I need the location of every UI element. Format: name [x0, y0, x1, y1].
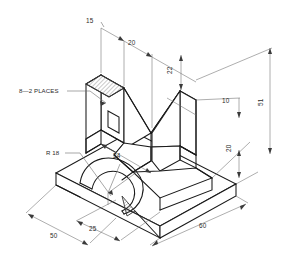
- arrow-22-bot: [179, 84, 183, 90]
- arrow-10-bot: [237, 112, 241, 118]
- dim-label-20a: 20: [128, 39, 136, 46]
- dim-label-60: 60: [199, 222, 207, 229]
- technical-drawing-canvas: 15 20 22 10 20: [0, 0, 294, 273]
- dim-label-34: 34: [113, 152, 121, 159]
- note-label-places: 8—2 PLACES: [19, 87, 59, 94]
- arrow-50-left: [28, 214, 34, 219]
- right-wing-inner-face: [152, 91, 180, 147]
- arrow-22-top: [179, 55, 183, 61]
- dim-label-22: 22: [166, 66, 173, 74]
- dim-label-25: 25: [89, 225, 97, 232]
- arrow-25-right: [114, 236, 120, 241]
- arrow-20b-bot: [237, 172, 241, 178]
- note-label-radius: R 18: [46, 149, 60, 156]
- arrow-15: [118, 36, 124, 41]
- rail-51-upper: [196, 48, 272, 80]
- arrow-20a: [146, 52, 152, 57]
- arrow-51-top: [268, 48, 272, 54]
- dim-label-15: 15: [86, 17, 94, 24]
- arrow-60-right: [240, 204, 246, 210]
- isometric-drawing-svg: 15 20 22 10 20: [0, 0, 294, 273]
- dim-label-51: 51: [257, 98, 264, 106]
- arrow-25-left: [77, 221, 83, 226]
- dim-label-20b: 20: [225, 144, 232, 152]
- arrow-51-bot: [268, 148, 272, 154]
- rail-22-upper: [152, 57, 196, 82]
- dim-line-25: [77, 221, 120, 241]
- ext-60-b: [236, 196, 248, 203]
- dim-line-50: [28, 214, 88, 245]
- dim-label-10: 10: [222, 97, 230, 104]
- ext-50-a: [26, 185, 56, 213]
- dim-label-50: 50: [50, 232, 58, 239]
- right-wing-side-face: [180, 91, 196, 155]
- rail-10-upper: [196, 98, 240, 100]
- arrow-50-right: [82, 240, 88, 245]
- leader-15: [101, 22, 104, 27]
